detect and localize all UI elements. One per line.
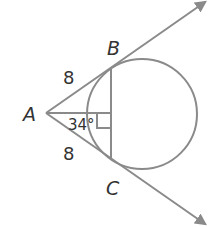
label-angle: 34°	[68, 116, 95, 134]
label-b: B	[107, 37, 120, 59]
label-ac-length: 8	[63, 143, 74, 164]
geometry-diagram: B A C 8 8 34°	[0, 0, 223, 227]
label-ab-length: 8	[63, 67, 74, 88]
label-c: C	[106, 177, 120, 199]
ray-ab	[46, 2, 205, 113]
label-a: A	[21, 103, 36, 125]
right-angle-mark	[97, 113, 111, 128]
